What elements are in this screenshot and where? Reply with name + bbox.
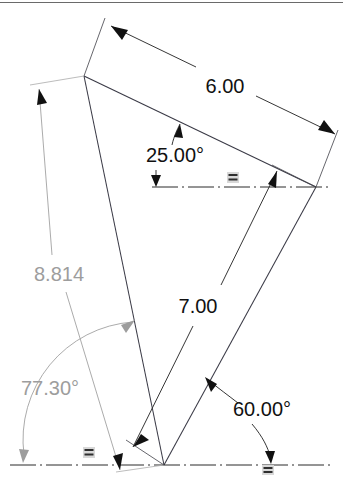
dimension-6-00-extension-start	[84, 18, 105, 76]
dimension-77-30-arrowhead-upper	[121, 320, 135, 333]
dimension-8-814-label[interactable]: 8.814	[34, 263, 84, 285]
dimension-60-00-deg[interactable]: 60.00°	[205, 377, 291, 464]
constraint-glyphs	[83, 172, 274, 475]
dimension-8-814-extension-end	[116, 465, 164, 472]
dimension-8-814[interactable]: 8.814	[30, 76, 164, 472]
horizontal-constraint-icon-2[interactable]	[83, 447, 95, 458]
dimension-7-00-extension-end	[126, 440, 164, 465]
dimension-25-00-label[interactable]: 25.00°	[146, 144, 204, 166]
dimension-8-814-extension-start	[30, 76, 84, 85]
triangle-edge-left	[84, 76, 164, 465]
triangle-edge-right	[164, 187, 316, 465]
dimension-7-00-line-upper	[221, 171, 277, 285]
dimension-8-814-arrowhead-end	[113, 453, 123, 470]
dimension-77-30-label[interactable]: 77.30°	[21, 377, 79, 399]
dimension-77-30-deg[interactable]: 77.30°	[19, 320, 135, 463]
dimension-6-00[interactable]: 6.00	[84, 18, 338, 187]
dimension-6-00-arrowhead-start	[111, 26, 128, 40]
horizontal-constraint-icon-1[interactable]	[227, 172, 239, 183]
dimension-6-00-arrowhead-end	[318, 120, 335, 134]
dimension-77-30-arrowhead-lower	[19, 449, 29, 463]
dimension-8-814-line-upper	[39, 89, 52, 255]
dimension-8-814-arrowhead-start	[37, 89, 47, 105]
dimension-60-00-arrowhead-lower	[265, 451, 275, 464]
dimension-6-00-extension-end	[316, 130, 338, 187]
datum-lines	[10, 187, 332, 465]
dimension-7-00-arrowhead-start	[268, 171, 277, 188]
dimension-25-00-deg[interactable]: 25.00°	[146, 124, 204, 187]
dimension-6-00-label[interactable]: 6.00	[206, 75, 245, 97]
dimension-7-00-extension-start	[272, 165, 316, 187]
dimension-60-00-label[interactable]: 60.00°	[233, 398, 291, 420]
dimension-7-00-arrowhead-end	[133, 434, 149, 447]
cad-sketch-svg: 6.00 25.00° 8.814	[0, 0, 343, 483]
triangle-edge-top	[84, 76, 316, 187]
cad-drawing-canvas: 6.00 25.00° 8.814	[0, 0, 343, 483]
horizontal-constraint-icon-3[interactable]	[262, 465, 274, 475]
dimension-25-00-arrowhead-lower	[151, 175, 161, 187]
dimension-7-00-label[interactable]: 7.00	[179, 295, 218, 317]
